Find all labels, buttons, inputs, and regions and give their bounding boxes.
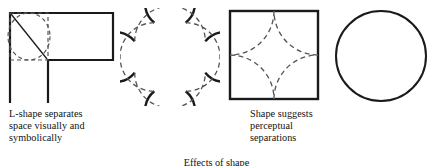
panel-circle: Round shape connects parts [325, 0, 433, 166]
inner-arc-bottom [135, 73, 206, 106]
l-shape-outline [10, 13, 113, 103]
circle-outline [336, 11, 426, 101]
quatrefoil-svg [120, 8, 220, 106]
panel-square-star: Corners suggest potential symbolic separ… [220, 0, 325, 166]
circle-svg [325, 8, 433, 106]
quatrefoil-inner-dashed-group [120, 8, 220, 106]
caption-l-shape: L-shape separates space visually and sym… [9, 108, 121, 145]
quatrefoil-arc-left [120, 32, 135, 82]
l-shape-svg [0, 8, 120, 103]
inner-arc-top [135, 8, 206, 41]
quatrefoil-outline-group [120, 8, 220, 106]
quatrefoil-arc-right [205, 32, 220, 82]
figure-title: Effects of shape [0, 157, 433, 166]
l-shape-art [0, 8, 120, 103]
figure-page: L-shape separates space visually and sym… [0, 0, 433, 166]
square-outline [230, 11, 318, 99]
square-star-svg [220, 8, 325, 106]
square-star-art [220, 8, 325, 106]
panel-quatrefoil: Shape suggests perceptual separations [120, 0, 220, 166]
panel-l-shape: L-shape separates space visually and sym… [0, 0, 120, 166]
quatrefoil-art [120, 8, 220, 106]
circle-art [325, 8, 433, 106]
